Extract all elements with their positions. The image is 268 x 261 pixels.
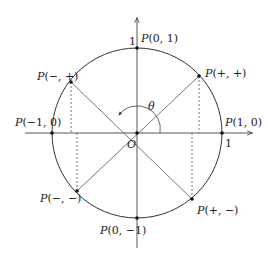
label-1-0: P(1, 0): [224, 116, 262, 129]
origin-label: O: [127, 138, 136, 151]
label-q4: P(+, −): [196, 204, 238, 217]
theta-label: θ: [148, 100, 155, 113]
unit-circle-diagram: 1 1 P(0, 1) P(+, +) P(−, +) P(1, 0) P(−1…: [0, 0, 268, 261]
point-q4: [190, 197, 194, 201]
tick-x-label: 1: [225, 137, 232, 150]
point-0-neg1: [135, 216, 139, 220]
label-q2: P(−, +): [36, 70, 78, 83]
label-q3: P(−, −): [39, 192, 81, 205]
point-neg1-0: [50, 131, 54, 135]
point-origin: [135, 131, 139, 135]
tick-y-label: 1: [129, 35, 136, 48]
label-0-neg1: P(0, −1): [99, 224, 146, 237]
label-q1: P(+, +): [204, 67, 246, 80]
point-q1: [197, 74, 201, 78]
label-0-1: P(0, 1): [140, 32, 178, 45]
point-1-0: [220, 131, 224, 135]
label-neg1-0: P(−1, 0): [14, 116, 61, 129]
